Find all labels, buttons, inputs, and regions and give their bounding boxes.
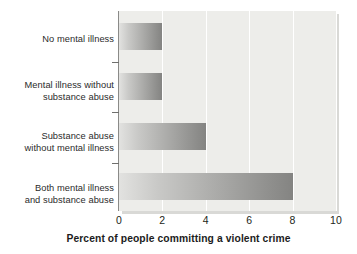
x-tick-label-2: 2	[159, 214, 165, 226]
category-label-2: Substance abuse without mental illness	[0, 131, 114, 154]
bar-2	[119, 123, 206, 150]
category-label-3-line-1: and substance abuse	[0, 195, 114, 207]
category-label-3: Both mental illness and substance abuse	[0, 183, 114, 206]
bar-1	[119, 73, 162, 100]
bar-3	[119, 173, 293, 200]
y-axis-line	[118, 11, 119, 211]
gridline-x-10	[336, 11, 337, 211]
category-label-1-line-1: substance abuse	[0, 92, 114, 104]
x-tick-label-10: 10	[330, 214, 342, 226]
x-axis-title: Percent of people committing a violent c…	[0, 233, 357, 244]
category-label-2-line-0: Substance abuse	[0, 131, 114, 143]
x-tick-label-6: 6	[246, 214, 252, 226]
bar-chart-figure: No mental illness Mental illness without…	[0, 0, 357, 254]
category-axis-labels: No mental illness Mental illness without…	[0, 11, 114, 211]
category-label-0: No mental illness	[0, 34, 114, 46]
x-tick-label-0: 0	[116, 214, 122, 226]
category-label-1-line-0: Mental illness without	[0, 80, 114, 92]
y-axis-tick-2	[112, 163, 119, 164]
plot-area	[119, 11, 336, 211]
category-label-0-line-0: No mental illness	[0, 34, 114, 46]
gridline-x-8	[293, 11, 294, 211]
x-tick-label-4: 4	[203, 214, 209, 226]
y-axis-tick-0	[112, 62, 119, 63]
category-label-3-line-0: Both mental illness	[0, 183, 114, 195]
bar-0	[119, 23, 162, 50]
category-label-1: Mental illness without substance abuse	[0, 80, 114, 103]
plot-inner	[119, 11, 336, 211]
category-label-2-line-1: without mental illness	[0, 143, 114, 155]
y-axis-tick-1	[112, 112, 119, 113]
x-axis-tick-labels: 0246810	[119, 214, 336, 230]
x-tick-label-8: 8	[290, 214, 296, 226]
